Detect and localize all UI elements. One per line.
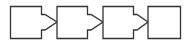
step-1-box bbox=[11, 7, 58, 39]
step-4-box bbox=[148, 7, 181, 39]
process-flow-diagram bbox=[0, 0, 188, 41]
step-3-box bbox=[103, 7, 148, 39]
step-2-box bbox=[57, 7, 103, 39]
